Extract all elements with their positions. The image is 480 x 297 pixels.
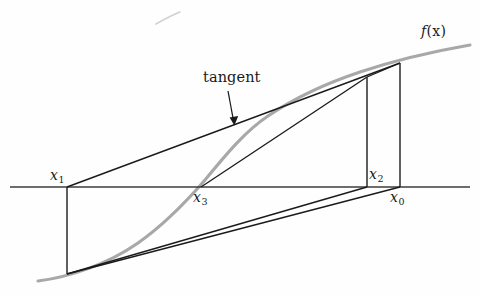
- scan-smudge-artifact: [156, 12, 180, 24]
- lower-chord-x0: [67, 187, 400, 274]
- label-x1: x1: [50, 168, 64, 182]
- diagram-svg: [0, 0, 480, 297]
- label-x3-var: x: [193, 189, 201, 205]
- label-function-arg: (x): [426, 23, 446, 39]
- label-x0: x0: [390, 190, 404, 204]
- label-tangent: tangent: [203, 70, 261, 85]
- figure-canvas: x1 x3 x2 x0 f(x) tangent: [0, 0, 480, 297]
- label-x1-sub: 1: [58, 174, 64, 185]
- label-x3: x3: [193, 190, 207, 204]
- secant-line: [201, 77, 367, 187]
- label-x0-sub: 0: [398, 196, 404, 207]
- label-function: f(x): [421, 24, 446, 38]
- tangent-arrow-shaft: [228, 91, 233, 119]
- lower-chord-x2: [67, 187, 367, 274]
- label-x2: x2: [369, 167, 383, 181]
- label-x2-var: x: [369, 166, 377, 182]
- label-x0-var: x: [390, 189, 398, 205]
- label-x3-sub: 3: [201, 196, 207, 207]
- label-x1-var: x: [50, 167, 58, 183]
- label-x2-sub: 2: [377, 173, 383, 184]
